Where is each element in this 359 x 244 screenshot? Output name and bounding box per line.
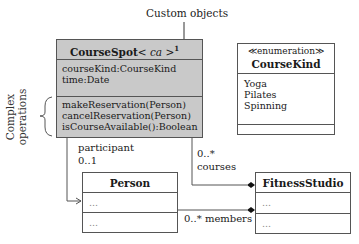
class-fitnessstudio[interactable]: FitnessStudio ... ... [255,172,351,234]
participant-multiplicity-label: 0..1 [78,155,97,166]
complex-operations-line1: Complex [4,82,16,152]
coursekind-stereotype: ≪enumeration≫ [238,46,334,56]
class-coursespot[interactable]: CourseSpot< ca >1 courseKind:CourseKind … [56,39,203,138]
class-coursekind[interactable]: ≪enumeration≫ CourseKind Yoga Pilates Sp… [237,43,335,135]
person-attributes-placeholder: ... [89,197,177,208]
person-title: Person [83,177,177,189]
coursespot-type-param: < ca > [138,46,174,58]
person-operations: ... [83,212,177,233]
coursekind-title: CourseKind [238,58,334,70]
fitnessstudio-operations: ... [256,213,350,234]
coursespot-attributes: courseKind:CourseKind time:Date [57,59,202,97]
person-operations-placeholder: ... [89,217,177,228]
courses-multiplicity-label: 0..* [197,148,215,159]
fitnessstudio-attributes-placeholder: ... [262,197,350,208]
person-attributes: ... [83,192,177,213]
class-person[interactable]: Person ... ... [82,172,178,233]
fitnessstudio-operations-placeholder: ... [262,218,350,229]
attribute-coursekind: courseKind:CourseKind [62,63,202,74]
courses-role-label: courses [197,161,236,172]
literal-pilates: Pilates [244,89,334,100]
fitnessstudio-attributes: ... [256,192,350,213]
fitnessstudio-title: FitnessStudio [256,177,350,189]
coursekind-literals: Yoga Pilates Spinning [238,73,334,125]
operation-cancel-reservation: cancelReservation(Person) [62,110,202,121]
members-label: 0..* members [184,213,252,224]
custom-objects-annotation: Custom objects [146,8,228,19]
operation-make-reservation: makeReservation(Person) [62,99,202,110]
attribute-time: time:Date [62,74,202,85]
coursespot-operations: makeReservation(Person) cancelReservatio… [57,96,202,138]
coursespot-name: CourseSpot [70,46,138,58]
complex-operations-line2: operations [16,82,28,152]
coursekind-operations [238,124,334,135]
operation-is-course-available: isCourseAvailable():Boolean [62,121,202,132]
participant-role-label: participant [78,142,134,153]
brace-icon [40,97,52,136]
complex-operations-annotation: Complex operations [4,82,30,152]
coursespot-superscript: 1 [174,44,179,53]
literal-spinning: Spinning [244,100,334,111]
coursespot-title: CourseSpot< ca >1 [47,44,202,58]
literal-yoga: Yoga [244,78,334,89]
